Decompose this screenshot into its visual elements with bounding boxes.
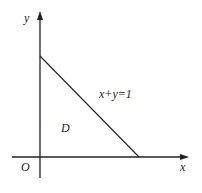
boundary-line bbox=[40, 56, 139, 157]
region-label: D bbox=[60, 121, 70, 135]
y-axis-arrow-icon bbox=[37, 11, 43, 20]
coordinate-diagram: y x+y=1 D O x bbox=[0, 0, 202, 193]
x-axis-label: x bbox=[179, 160, 186, 174]
origin-label: O bbox=[21, 160, 30, 174]
y-axis-label: y bbox=[23, 11, 30, 25]
line-equation-label: x+y=1 bbox=[98, 87, 132, 101]
